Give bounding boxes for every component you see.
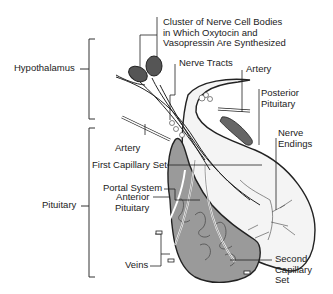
label-artery-left: Artery [115, 143, 140, 154]
label-pituitary: Pituitary [42, 200, 76, 211]
label-second-capillary-set: Second Capillary Set [275, 254, 312, 286]
pituitary-bracket [81, 128, 95, 277]
label-posterior-pituitary: Posterior Pituitary [261, 88, 299, 109]
label-hypothalamus: Hypothalamus [14, 63, 75, 74]
label-veins: Veins [125, 260, 148, 271]
label-anterior-pituitary: Anterior Pituitary [115, 192, 149, 213]
label-cluster: Cluster of Nerve Cell Bodies in Which Ox… [163, 17, 286, 49]
label-nerve-endings: Nerve Endings [278, 128, 312, 149]
hypothalamus-bracket [80, 39, 95, 119]
label-first-capillary-set: First Capillary Set [92, 160, 167, 171]
label-artery-top: Artery [246, 64, 271, 75]
label-nerve-tracts: Nerve Tracts [179, 58, 233, 69]
cell-body-2 [146, 56, 162, 76]
